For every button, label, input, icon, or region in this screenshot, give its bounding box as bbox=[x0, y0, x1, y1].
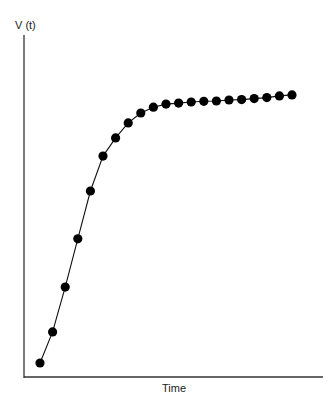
data-point bbox=[199, 97, 208, 106]
data-point bbox=[161, 100, 170, 109]
data-point bbox=[35, 358, 44, 367]
chart: V (t) Time bbox=[0, 0, 332, 400]
data-point bbox=[124, 118, 133, 127]
data-point bbox=[61, 283, 70, 292]
data-point bbox=[212, 96, 221, 105]
data-markers bbox=[35, 90, 296, 367]
data-point bbox=[111, 133, 120, 142]
data-point bbox=[187, 97, 196, 106]
data-point bbox=[98, 152, 107, 161]
data-point bbox=[287, 90, 296, 99]
series-line bbox=[40, 95, 292, 363]
data-point bbox=[250, 94, 259, 103]
data-point bbox=[86, 186, 95, 195]
data-point bbox=[224, 95, 233, 104]
x-axis-label: Time bbox=[162, 382, 186, 394]
data-point bbox=[275, 91, 284, 100]
data-point bbox=[136, 108, 145, 117]
data-point bbox=[73, 234, 82, 243]
data-point bbox=[262, 93, 271, 102]
data-point bbox=[237, 95, 246, 104]
data-point bbox=[149, 103, 158, 112]
y-axis-label: V (t) bbox=[15, 19, 36, 31]
data-point bbox=[174, 99, 183, 108]
data-point bbox=[48, 327, 57, 336]
